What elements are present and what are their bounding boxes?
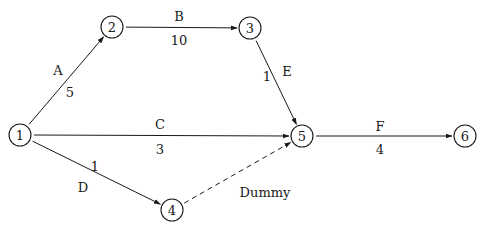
node-label: 6 — [461, 129, 469, 144]
node-label: 2 — [108, 20, 116, 35]
node-5: 5 — [291, 125, 313, 147]
node-3: 3 — [239, 17, 261, 39]
node-label: 3 — [246, 21, 254, 36]
node-4: 4 — [161, 199, 183, 221]
duration-label-b: 10 — [171, 33, 188, 48]
activity-label-c: C — [155, 117, 165, 132]
activity-arrow-a — [29, 37, 104, 124]
duration-label-a: 5 — [66, 85, 74, 100]
activity-label-b: B — [174, 9, 184, 24]
activity-arrow-c — [34, 135, 289, 136]
dummy-label: Dummy — [240, 185, 291, 200]
network-diagram: 123456 A5B10E1C3D1DummyF4 — [0, 0, 481, 227]
activity-label-a: A — [52, 63, 63, 78]
activity-label-d: D — [78, 180, 88, 195]
activity-label-f: F — [375, 119, 384, 134]
edges — [29, 27, 452, 204]
node-1: 1 — [9, 124, 31, 146]
duration-label-d: 1 — [91, 159, 99, 174]
duration-label-f: 4 — [376, 142, 384, 157]
node-label: 5 — [298, 129, 306, 144]
node-label: 1 — [16, 128, 24, 143]
activity-label-e: E — [282, 64, 292, 79]
activity-arrow-b — [126, 27, 237, 28]
duration-label-c: 3 — [156, 142, 164, 157]
node-label: 4 — [168, 203, 176, 218]
node-6: 6 — [454, 125, 476, 147]
duration-label-e: 1 — [263, 69, 271, 84]
edge-labels: A5B10E1C3D1DummyF4 — [52, 9, 384, 200]
node-2: 2 — [101, 16, 123, 38]
